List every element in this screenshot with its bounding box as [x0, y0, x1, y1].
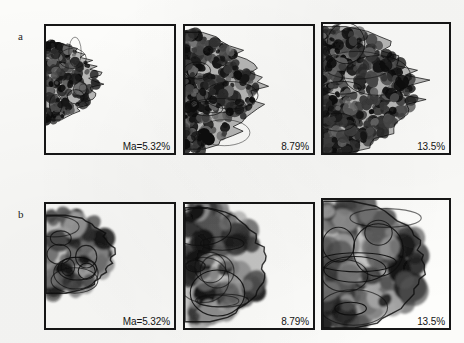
- panel-label-b-0: Ma=5.32%: [123, 316, 170, 327]
- panel-label-b-2: 13.5%: [417, 316, 445, 327]
- panel-label-a-2: 13.5%: [417, 141, 445, 152]
- panel-b-13-5: 13.5%: [321, 198, 451, 330]
- panel-label-a-1: 8.79%: [281, 141, 309, 152]
- panel-a-13-5: 13.5%: [321, 22, 451, 155]
- panel-label-b-1: 8.79%: [281, 316, 309, 327]
- cluster-b-ma-5-32: [46, 204, 174, 328]
- panel-a-8-79: 8.79%: [183, 24, 315, 155]
- cluster-b-8-79: [185, 204, 313, 328]
- cluster-b-13-5: [323, 200, 449, 328]
- figure-canvas: a Ma=5.32% 8.79% 13.5% b Ma=5.32% 8.79% …: [0, 0, 464, 343]
- cluster-a-8-79: [185, 26, 313, 153]
- panel-label-a-0: Ma=5.32%: [123, 141, 170, 152]
- row-label-b: b: [18, 208, 24, 220]
- row-label-a: a: [18, 30, 23, 42]
- cluster-a-ma-5-32: [46, 26, 174, 153]
- panel-b-8-79: 8.79%: [183, 202, 315, 330]
- panel-b-ma-5-32: Ma=5.32%: [44, 202, 176, 330]
- cluster-a-13-5: [323, 24, 449, 153]
- panel-a-ma-5-32: Ma=5.32%: [44, 24, 176, 155]
